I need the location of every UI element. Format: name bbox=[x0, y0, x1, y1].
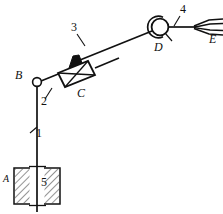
link-3-upper-arm bbox=[80, 31, 152, 60]
pin-joint-b bbox=[33, 78, 42, 87]
bracket-left-hatch bbox=[15, 169, 30, 204]
parallel-guide-rail bbox=[95, 58, 119, 68]
mechanism-schematic-svg: B C D E A 1 2 3 4 5 bbox=[0, 0, 223, 214]
joint-d-tick bbox=[165, 33, 172, 41]
label-e: E bbox=[208, 32, 217, 46]
label-d: D bbox=[153, 40, 163, 54]
label-c: C bbox=[77, 86, 86, 100]
label-link-4: 4 bbox=[180, 2, 186, 16]
actuator-block-c bbox=[58, 55, 95, 87]
label-link-5: 5 bbox=[41, 175, 47, 189]
label-b: B bbox=[15, 68, 23, 82]
leader-link-4 bbox=[174, 16, 180, 26]
pivot-joint-d bbox=[148, 16, 172, 41]
upper-arm-line bbox=[80, 31, 152, 60]
joint-b-circle bbox=[33, 78, 42, 87]
leader-link-3 bbox=[77, 34, 85, 46]
label-link-3: 3 bbox=[71, 20, 77, 34]
joint-d-circle bbox=[152, 19, 169, 36]
support-bracket-left bbox=[14, 168, 30, 204]
mechanism-diagram: B C D E A 1 2 3 4 5 bbox=[0, 0, 223, 214]
label-link-1: 1 bbox=[36, 126, 42, 140]
label-a: A bbox=[2, 173, 10, 184]
guide-rail-line bbox=[95, 58, 119, 68]
label-link-2: 2 bbox=[41, 94, 47, 108]
